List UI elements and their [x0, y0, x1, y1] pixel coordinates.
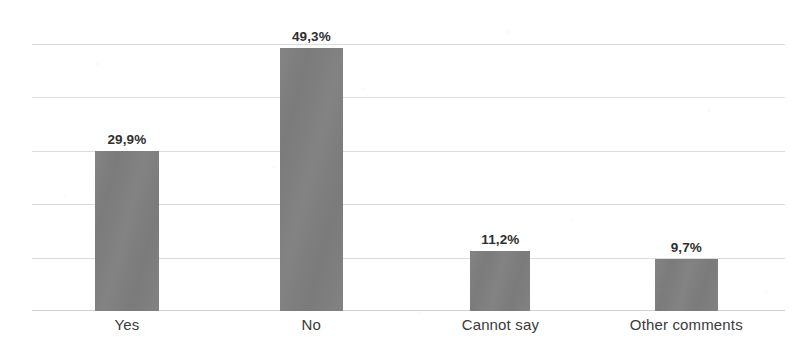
bar-value-label-other-comments: 9,7%	[629, 240, 744, 255]
bar-other-comments[interactable]: 9,7%	[655, 259, 718, 311]
bar-value-label-no: 49,3%	[254, 29, 369, 44]
plot-area: 29,9% 49,3% 11,2% 9,7%	[32, 44, 785, 311]
category-label-no: No	[216, 316, 406, 333]
category-label-cannot-say: Cannot say	[405, 316, 595, 333]
bar-group-yes: 29,9%	[95, 44, 158, 311]
bar-yes[interactable]: 29,9%	[95, 151, 158, 311]
bar-group-other-comments: 9,7%	[655, 44, 718, 311]
category-axis: Yes No Cannot say Other comments	[32, 316, 785, 346]
category-label-other-comments: Other comments	[591, 316, 781, 333]
bars-layer: 29,9% 49,3% 11,2% 9,7%	[32, 44, 785, 311]
bar-group-cannot-say: 11,2%	[470, 44, 530, 311]
category-label-yes: Yes	[32, 316, 222, 333]
bar-value-label-cannot-say: 11,2%	[444, 232, 556, 247]
bar-value-label-yes: 29,9%	[69, 132, 184, 147]
bar-no[interactable]: 49,3%	[280, 48, 343, 311]
bar-cannot-say[interactable]: 11,2%	[470, 251, 530, 311]
bar-group-no: 49,3%	[280, 44, 343, 311]
bar-chart-figure: 29,9% 49,3% 11,2% 9,7% Yes No	[0, 0, 806, 356]
